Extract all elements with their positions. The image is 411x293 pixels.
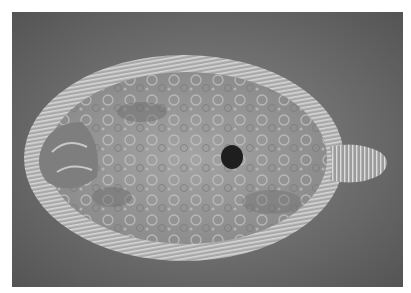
flatfish-illustration xyxy=(12,12,403,287)
photo-background xyxy=(12,12,403,287)
tail-fin xyxy=(330,144,387,182)
dark-spot xyxy=(221,145,243,169)
